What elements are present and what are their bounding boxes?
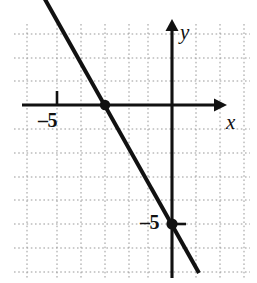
point-y-intercept <box>166 218 177 229</box>
graph-canvas <box>0 0 257 283</box>
plot-background <box>0 0 257 283</box>
y-axis-tick-label-minus5: –5 <box>140 212 159 232</box>
x-axis-label: x <box>226 112 235 133</box>
y-axis-label: y <box>180 22 189 43</box>
coordinate-plane-figure: x y –5 –5 <box>0 0 257 283</box>
x-axis-tick-label-minus5: –5 <box>38 110 57 130</box>
point-x-intercept <box>100 100 110 110</box>
